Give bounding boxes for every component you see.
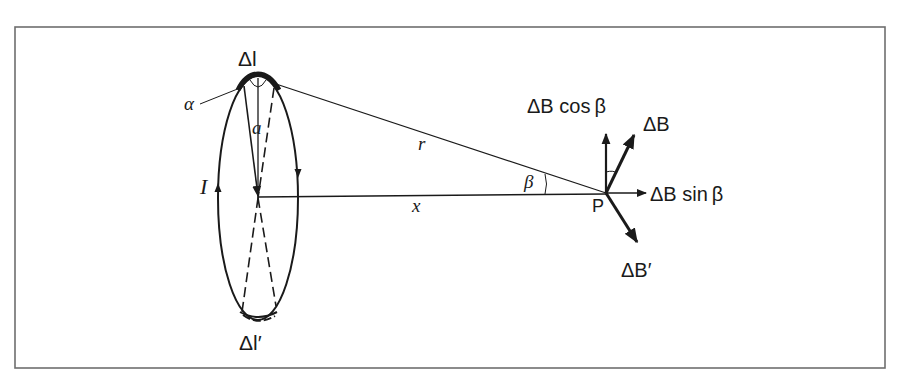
label-delta-B-prime: ΔB′ [621, 259, 652, 281]
position-vector [244, 86, 258, 196]
label-current-I: I [199, 174, 209, 199]
label-point-P: P [592, 196, 604, 216]
vector-dB [606, 135, 634, 193]
label-delta-l: Δl [238, 47, 257, 70]
loop-field-diagram: Δl Δl′ α a I r x β P ΔB cos β ΔB ΔB sin … [0, 0, 899, 382]
label-delta-l-prime: Δl′ [239, 331, 262, 354]
label-delta-B-cos: ΔB cos β [527, 95, 606, 117]
label-radius-a: a [252, 117, 262, 138]
label-delta-B: ΔB [643, 113, 670, 135]
axis-x [258, 194, 606, 197]
vector-dB-prime [606, 193, 637, 242]
figure-frame [15, 27, 885, 368]
label-x: x [411, 195, 421, 216]
label-alpha: α [184, 93, 195, 114]
label-r: r [418, 133, 426, 154]
current-arrow-left-icon [215, 183, 222, 192]
beta-arc [545, 174, 547, 194]
current-arrow-right-icon [295, 169, 302, 178]
label-delta-B-sin: ΔB sin β [650, 183, 723, 205]
label-beta: β [523, 171, 534, 192]
